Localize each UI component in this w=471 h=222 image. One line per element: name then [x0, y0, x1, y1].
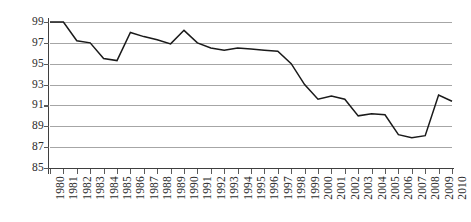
y-tick-mark-87 — [44, 147, 49, 148]
x-tick-label-1999: 1999 — [310, 176, 322, 200]
x-tick-label-2005: 2005 — [390, 176, 402, 200]
gridline-95 — [50, 64, 452, 65]
x-tick-mark-1998 — [291, 169, 292, 174]
x-tick-label-2008: 2008 — [430, 176, 442, 200]
x-tick-mark-2009 — [439, 169, 440, 174]
x-tick-mark-2006 — [398, 169, 399, 174]
line-chart: 8587899193959799 19801981198219831984198… — [0, 0, 471, 222]
x-tick-label-1995: 1995 — [256, 176, 268, 200]
x-tick-label-2003: 2003 — [363, 176, 375, 200]
x-tick-mark-2002 — [345, 169, 346, 174]
x-tick-label-2000: 2000 — [323, 176, 335, 200]
y-tick-mark-89 — [44, 126, 49, 127]
x-tick-label-2007: 2007 — [417, 176, 429, 200]
x-tick-label-1983: 1983 — [95, 176, 107, 200]
gridline-93 — [50, 85, 452, 86]
x-tick-label-2001: 2001 — [336, 176, 348, 200]
x-axis-tick-labels: 1980198119821983198419851986198719881989… — [0, 168, 471, 222]
y-tick-mark-91 — [44, 105, 49, 106]
x-tick-label-1980: 1980 — [55, 176, 67, 200]
x-tick-mark-2000 — [318, 169, 319, 174]
y-tick-mark-97 — [44, 43, 49, 44]
x-tick-label-1992: 1992 — [216, 176, 228, 200]
x-tick-label-1988: 1988 — [162, 176, 174, 200]
x-tick-mark-1988 — [157, 169, 158, 174]
x-tick-label-1984: 1984 — [109, 176, 121, 200]
x-tick-mark-1985 — [117, 169, 118, 174]
x-tick-label-1982: 1982 — [82, 176, 94, 200]
y-tick-label-89: 89 — [4, 120, 44, 132]
x-tick-mark-1986 — [130, 169, 131, 174]
x-tick-label-1996: 1996 — [269, 176, 281, 200]
y-tick-label-93: 93 — [4, 79, 44, 91]
x-tick-mark-1999 — [305, 169, 306, 174]
x-tick-label-1985: 1985 — [122, 176, 134, 200]
x-tick-mark-2001 — [331, 169, 332, 174]
y-tick-label-91: 91 — [4, 99, 44, 111]
x-tick-label-2009: 2009 — [444, 176, 456, 200]
y-tick-label-95: 95 — [4, 58, 44, 70]
y-tick-mark-93 — [44, 85, 49, 86]
x-tick-label-1986: 1986 — [135, 176, 147, 200]
y-tick-mark-95 — [44, 64, 49, 65]
x-tick-label-1981: 1981 — [68, 176, 80, 200]
x-tick-label-1990: 1990 — [189, 176, 201, 200]
x-tick-mark-1997 — [278, 169, 279, 174]
x-tick-mark-1980 — [50, 169, 51, 174]
gridline-99 — [50, 22, 452, 23]
x-tick-mark-2003 — [358, 169, 359, 174]
plot-area — [50, 22, 452, 168]
x-tick-mark-1991 — [197, 169, 198, 174]
x-tick-mark-1983 — [90, 169, 91, 174]
x-tick-mark-1993 — [224, 169, 225, 174]
x-tick-label-2004: 2004 — [377, 176, 389, 200]
x-tick-label-2002: 2002 — [350, 176, 362, 200]
gridline-97 — [50, 43, 452, 44]
x-tick-label-1991: 1991 — [202, 176, 214, 200]
y-tick-mark-99 — [44, 22, 49, 23]
gridline-87 — [50, 147, 452, 148]
x-tick-mark-2005 — [385, 169, 386, 174]
x-tick-mark-1989 — [171, 169, 172, 174]
x-tick-label-1993: 1993 — [229, 176, 241, 200]
x-tick-label-2010: 2010 — [457, 176, 469, 200]
x-tick-label-1987: 1987 — [149, 176, 161, 200]
x-tick-mark-2004 — [372, 169, 373, 174]
y-tick-label-99: 99 — [4, 16, 44, 28]
x-tick-mark-2008 — [425, 169, 426, 174]
y-axis-line — [48, 18, 49, 174]
x-tick-mark-1984 — [104, 169, 105, 174]
x-tick-label-2006: 2006 — [403, 176, 415, 200]
x-tick-mark-1987 — [144, 169, 145, 174]
x-tick-label-1997: 1997 — [283, 176, 295, 200]
x-tick-mark-1981 — [63, 169, 64, 174]
x-tick-mark-1982 — [77, 169, 78, 174]
y-tick-label-97: 97 — [4, 37, 44, 49]
x-tick-mark-1996 — [264, 169, 265, 174]
x-tick-mark-1992 — [211, 169, 212, 174]
x-tick-mark-1990 — [184, 169, 185, 174]
gridline-89 — [50, 126, 452, 127]
x-tick-mark-2007 — [412, 169, 413, 174]
x-tick-mark-2010 — [452, 169, 453, 174]
gridline-91 — [50, 105, 452, 106]
x-tick-mark-1994 — [238, 169, 239, 174]
x-tick-label-1989: 1989 — [176, 176, 188, 200]
x-tick-label-1994: 1994 — [243, 176, 255, 200]
x-tick-label-1998: 1998 — [296, 176, 308, 200]
y-tick-label-87: 87 — [4, 141, 44, 153]
x-tick-mark-1995 — [251, 169, 252, 174]
